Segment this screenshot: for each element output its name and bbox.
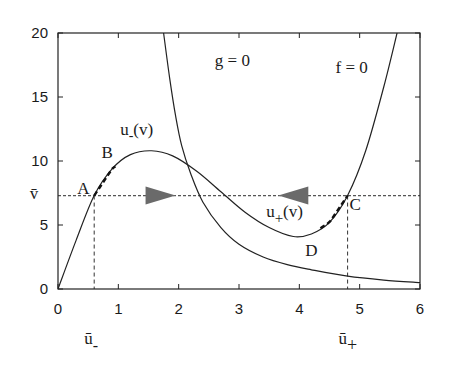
chart: g = 0 f = 0 u-(v) u+(v) v̄ ū- ū+ A B C… bbox=[0, 0, 453, 378]
u-minus-of-v-label: u-(v) bbox=[120, 120, 153, 143]
y-tick-label: 20 bbox=[31, 24, 48, 41]
point-label-a: A bbox=[77, 179, 90, 198]
point-label-c: C bbox=[350, 195, 361, 214]
arrow-right-icon bbox=[146, 187, 176, 205]
x-tick-label: 3 bbox=[235, 300, 243, 317]
y-tick-labels: 05101520 bbox=[31, 24, 48, 297]
x-tick-label: 2 bbox=[174, 300, 182, 317]
f-zero-label: f = 0 bbox=[336, 58, 368, 77]
point-label-b: B bbox=[101, 143, 112, 162]
y-tick-label: 0 bbox=[40, 280, 48, 297]
x-tick-label: 5 bbox=[355, 300, 363, 317]
v-bar-label: v̄ bbox=[30, 184, 39, 203]
x-tick-labels: 0123456 bbox=[54, 300, 424, 317]
y-tick-label: 5 bbox=[40, 216, 48, 233]
point-label-d: D bbox=[305, 241, 317, 260]
x-tick-label: 4 bbox=[295, 300, 303, 317]
u-bar-minus-label: ū- bbox=[84, 329, 98, 354]
x-tick-label: 0 bbox=[54, 300, 62, 317]
segment-d-c bbox=[320, 196, 347, 229]
segment-a-b bbox=[94, 166, 115, 195]
u-plus-of-v-label: u+(v) bbox=[266, 202, 303, 226]
y-tick-label: 10 bbox=[31, 152, 48, 169]
x-tick-label: 6 bbox=[416, 300, 424, 317]
g-zero-label: g = 0 bbox=[215, 51, 250, 70]
g-zero-curve bbox=[164, 33, 420, 283]
x-tick-label: 1 bbox=[114, 300, 122, 317]
u-bar-plus-label: ū+ bbox=[339, 329, 358, 355]
y-tick-label: 15 bbox=[31, 88, 48, 105]
